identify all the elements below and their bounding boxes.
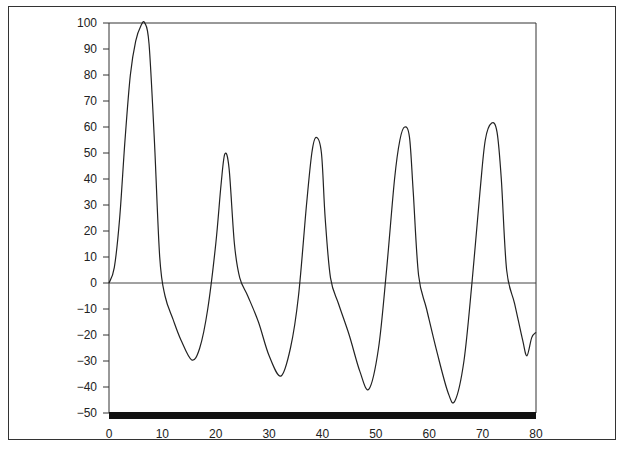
y-tick-label: 20: [84, 224, 98, 238]
y-tick-label: 10: [84, 250, 98, 264]
x-tick-label: 30: [262, 427, 276, 441]
x-tick-label: 10: [156, 427, 170, 441]
y-tick-label: −50: [77, 406, 98, 420]
x-axis-bar: [109, 412, 536, 419]
x-tick-label: 0: [106, 427, 113, 441]
y-tick-label: 40: [84, 172, 98, 186]
plot-border: [109, 23, 536, 413]
signal-line: [109, 22, 536, 403]
y-tick-label: 60: [84, 120, 98, 134]
x-tick-label: 40: [316, 427, 330, 441]
x-tick-label: 70: [476, 427, 490, 441]
y-tick-label: −40: [77, 380, 98, 394]
y-tick-label: 70: [84, 94, 98, 108]
plot-axes: [109, 23, 536, 419]
y-tick-label: 50: [84, 146, 98, 160]
y-tick-label: −30: [77, 354, 98, 368]
y-tick-label: 30: [84, 198, 98, 212]
x-tick-label: 20: [209, 427, 223, 441]
x-tick-label: 50: [369, 427, 383, 441]
line-chart: 1009080706050403020100−10−20−30−40−50010…: [0, 0, 627, 460]
y-tick-label: −20: [77, 328, 98, 342]
y-tick-label: −10: [77, 302, 98, 316]
y-tick-label: 80: [84, 68, 98, 82]
x-tick-label: 80: [529, 427, 543, 441]
y-tick-label: 0: [90, 276, 97, 290]
axis-ticks: 1009080706050403020100−10−20−30−40−50010…: [77, 16, 543, 441]
x-tick-label: 60: [423, 427, 437, 441]
y-tick-label: 90: [84, 42, 98, 56]
y-tick-label: 100: [77, 16, 97, 30]
